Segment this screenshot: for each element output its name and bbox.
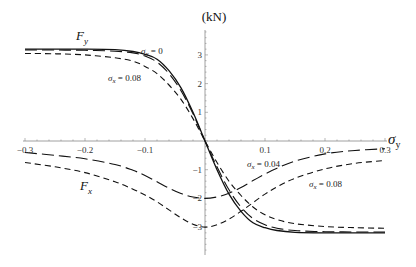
annotation-sigma-x-0.08-fx: σx = 0.08 <box>309 179 342 191</box>
y-tick-label: 3 <box>198 50 203 60</box>
annotation-sigma-x-0.08-fy: σx = 0.08 <box>108 73 141 85</box>
x-tick-label: −0.2 <box>77 145 93 155</box>
y-tick-label: 1 <box>198 107 203 117</box>
fy-label: Fy <box>75 28 88 46</box>
y-tick-label: 2 <box>198 79 203 89</box>
force-chart: −0.3−0.2−0.10.10.20.3321−1−2−3 (kN) σy F… <box>0 0 416 267</box>
y-tick-label: −1 <box>192 165 202 175</box>
axes: −0.3−0.2−0.10.10.20.3321−1−2−3 <box>17 30 391 255</box>
x-tick-label: −0.1 <box>137 145 153 155</box>
y-tick-label: −2 <box>192 193 202 203</box>
x-tick-label: 0.1 <box>259 145 270 155</box>
y-tick-label: −3 <box>192 222 202 232</box>
x-axis-label-sub: y <box>395 139 400 150</box>
fx-label-sub: x <box>87 186 92 196</box>
y-axis-label: (kN) <box>202 9 227 24</box>
fy-label-sub: y <box>83 36 88 46</box>
fx-label: Fx <box>79 178 92 196</box>
